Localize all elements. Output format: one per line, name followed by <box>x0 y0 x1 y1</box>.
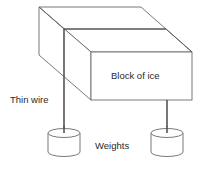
label-weights: Weights <box>95 140 129 151</box>
label-thin-wire: Thin wire <box>10 94 49 105</box>
label-block-of-ice: Block of ice <box>111 70 160 81</box>
ice-block <box>39 7 192 100</box>
ice-wire-diagram: Block of ice Thin wire Weights <box>0 0 201 170</box>
